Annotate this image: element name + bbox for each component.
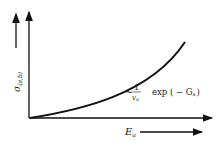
y-label: σ(a,b) (12, 71, 23, 92)
diagram: σ(a,b) Ea ~ 1 va exp ( − Ga) (0, 0, 223, 147)
ylabel-sub: (a,b) (16, 71, 23, 86)
annotation: ~ 1 va exp ( − Ga) (125, 83, 200, 102)
curve (30, 42, 185, 118)
svg-text:exp ( − Ga): exp ( − Ga) (152, 87, 200, 97)
x-label: Ea (124, 126, 136, 138)
svg-text:1: 1 (134, 83, 139, 92)
svg-text:σ(a,b): σ(a,b) (12, 71, 23, 92)
svg-text:va: va (132, 94, 139, 102)
